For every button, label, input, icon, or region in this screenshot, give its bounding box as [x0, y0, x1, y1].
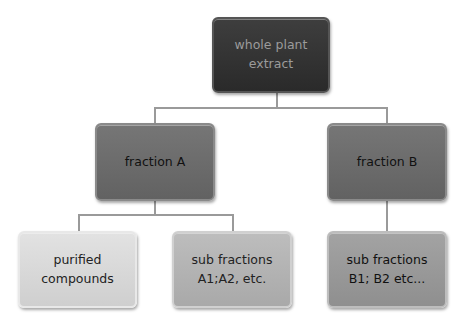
connector-fraction-b-down: [386, 200, 388, 231]
connector-level2a-horizontal: [78, 214, 234, 216]
connector-purified-up: [78, 214, 80, 231]
node-label: sub fractions A1;A2, etc.: [192, 251, 273, 289]
connector-subfractions-a-up: [232, 214, 234, 231]
node-label: whole plant extract: [235, 36, 308, 74]
node-sub-fractions-b[interactable]: sub fractions B1; B2 etc...: [327, 231, 447, 308]
node-label: fraction A: [125, 153, 186, 172]
node-label: fraction B: [357, 153, 418, 172]
connector-level1-horizontal: [154, 107, 388, 109]
node-sub-fractions-a[interactable]: sub fractions A1;A2, etc.: [172, 231, 292, 308]
connector-fraction-a-down: [154, 200, 156, 215]
connector-fraction-b-up: [386, 107, 388, 124]
node-whole-plant-extract[interactable]: whole plant extract: [212, 17, 330, 93]
connector-fraction-a-up: [154, 107, 156, 124]
node-purified-compounds[interactable]: purified compounds: [18, 231, 137, 308]
node-fraction-a[interactable]: fraction A: [95, 123, 215, 201]
node-fraction-b[interactable]: fraction B: [327, 123, 447, 201]
node-label: sub fractions B1; B2 etc...: [347, 251, 428, 289]
node-label: purified compounds: [41, 251, 114, 289]
